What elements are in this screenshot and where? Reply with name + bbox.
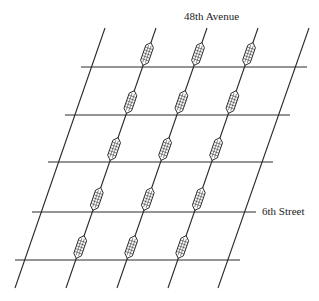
crosswalk-marker-icon	[123, 89, 138, 114]
crosswalk-marker-icon	[72, 234, 87, 259]
crosswalk-marker-icon	[140, 186, 155, 211]
crosswalk-marker-icon	[191, 186, 206, 211]
avenue-label: 48th Avenue	[184, 10, 239, 22]
street-grid-diagram	[0, 0, 319, 301]
crosswalk-marker-icon	[208, 136, 223, 161]
crosswalk-marker-icon	[106, 136, 121, 161]
avenue-line	[15, 28, 105, 288]
street-label: 6th Street	[262, 205, 304, 217]
crosswalk-marker-icon	[225, 89, 240, 114]
crosswalk-marker-icon	[89, 186, 104, 211]
crosswalk-marker-icon	[174, 234, 189, 259]
crosswalk-marker-icon	[123, 234, 138, 259]
streets	[15, 67, 307, 260]
crosswalk-markers	[72, 41, 256, 259]
crosswalk-marker-icon	[174, 89, 189, 114]
crosswalk-marker-icon	[139, 41, 154, 66]
crosswalk-marker-icon	[190, 41, 205, 66]
crosswalk-marker-icon	[157, 136, 172, 161]
crosswalk-marker-icon	[241, 41, 256, 66]
